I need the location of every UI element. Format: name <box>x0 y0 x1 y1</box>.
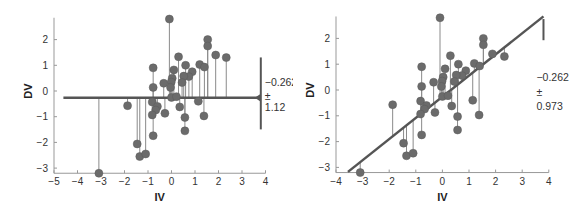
x-tick-label: −4 <box>330 176 342 187</box>
data-point <box>476 62 484 70</box>
data-point <box>149 132 157 140</box>
data-point <box>200 63 208 71</box>
data-point <box>175 53 183 61</box>
data-point <box>475 111 483 119</box>
data-point <box>124 102 132 110</box>
data-point <box>204 42 212 50</box>
data-point <box>170 66 178 74</box>
data-point <box>454 60 462 68</box>
data-point <box>431 108 439 116</box>
x-tick-label: 1 <box>192 176 198 187</box>
data-point <box>450 77 458 85</box>
annotation-sd: 0.973 <box>536 100 562 112</box>
data-point <box>454 126 462 134</box>
data-point <box>454 113 462 121</box>
data-point <box>212 51 220 59</box>
x-axis-title: IV <box>437 191 448 203</box>
y-tick-label: 1 <box>324 59 330 70</box>
x-tick-label: 3 <box>239 176 245 187</box>
x-tick-label: −1 <box>142 176 154 187</box>
left-scatter-plot: −3−2−1012−5−4−3−2−101234IVDV−0.262±1.12 <box>0 0 293 210</box>
data-point <box>161 109 169 117</box>
data-point <box>400 139 408 147</box>
x-tick-label: 0 <box>440 176 446 187</box>
x-axis-title: IV <box>155 191 166 203</box>
data-point <box>418 131 426 139</box>
y-axis-title: DV <box>304 82 316 98</box>
y-axis-title: DV <box>22 83 34 99</box>
y-tick-label: −3 <box>37 163 49 174</box>
data-point <box>418 63 426 71</box>
data-point <box>133 140 141 148</box>
mean-marker-icon <box>255 94 261 102</box>
data-point <box>181 113 189 121</box>
data-point <box>417 110 425 118</box>
data-point <box>488 50 496 58</box>
y-tick-label: 0 <box>42 86 48 97</box>
x-tick-label: 0 <box>169 176 175 187</box>
annotation-value: −0.262 <box>536 71 569 83</box>
data-point <box>222 54 230 62</box>
data-point <box>444 92 452 100</box>
data-point <box>356 169 364 177</box>
data-point <box>148 111 156 119</box>
x-tick-label: −3 <box>95 176 107 187</box>
data-point <box>182 61 190 69</box>
x-tick-label: 2 <box>216 176 222 187</box>
y-tick-label: 0 <box>324 85 330 96</box>
annotation-value: −0.262 <box>265 76 293 88</box>
annotation-sd: 1.12 <box>265 101 286 113</box>
data-point <box>436 14 444 22</box>
data-point <box>446 52 454 60</box>
data-point <box>165 15 173 23</box>
x-tick-label: −3 <box>357 176 369 187</box>
right-scatter-plot: −3−2−1012−4−3−2−101234IVDV−0.262±0.973 <box>293 0 586 210</box>
x-tick-label: 3 <box>519 176 525 187</box>
data-point <box>194 97 202 105</box>
y-tick-label: −3 <box>319 162 331 173</box>
y-tick-label: −2 <box>319 136 331 147</box>
x-tick-label: 2 <box>493 176 499 187</box>
y-tick-label: 1 <box>42 60 48 71</box>
data-point <box>200 112 208 120</box>
data-point <box>95 169 103 177</box>
data-point <box>448 102 456 110</box>
data-point <box>178 79 186 87</box>
x-tick-label: −2 <box>383 176 395 187</box>
data-point <box>149 64 157 72</box>
data-point <box>469 96 477 104</box>
annotation-pm: ± <box>536 86 542 98</box>
data-point <box>389 101 397 109</box>
figure: −3−2−1012−5−4−3−2−101234IVDV−0.262±1.12 … <box>0 0 586 210</box>
data-point <box>409 149 417 157</box>
data-point <box>479 41 487 49</box>
y-tick-label: −2 <box>37 137 49 148</box>
data-point <box>167 83 175 91</box>
y-tick-label: −1 <box>37 111 49 122</box>
y-tick-label: −1 <box>319 110 331 121</box>
data-point <box>430 78 438 86</box>
data-point <box>142 150 150 158</box>
x-tick-label: 1 <box>466 176 472 187</box>
data-point <box>500 52 508 60</box>
data-point <box>437 82 445 90</box>
x-tick-label: −4 <box>72 176 84 187</box>
data-point <box>172 93 180 101</box>
x-tick-label: 4 <box>263 176 269 187</box>
data-point <box>418 82 426 90</box>
data-point <box>181 127 189 135</box>
y-tick-label: 2 <box>324 33 330 44</box>
x-tick-label: 4 <box>546 176 552 187</box>
data-point <box>176 103 184 111</box>
data-point <box>441 65 449 73</box>
data-point <box>149 83 157 91</box>
y-tick-label: 2 <box>42 34 48 45</box>
x-tick-label: −5 <box>48 176 60 187</box>
x-tick-label: −2 <box>119 176 131 187</box>
x-tick-label: −1 <box>410 176 422 187</box>
